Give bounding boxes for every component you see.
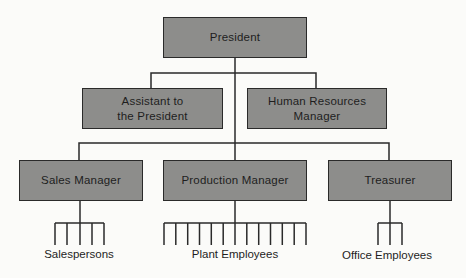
production-label: Production Manager bbox=[181, 173, 288, 188]
staff-connector bbox=[151, 73, 316, 88]
plant-employees-rake bbox=[164, 223, 306, 245]
office-employees-label: Office Employees bbox=[342, 249, 432, 261]
hr-label: Human Resources Manager bbox=[268, 94, 366, 124]
line-connector bbox=[79, 143, 389, 160]
president-box: President bbox=[163, 17, 307, 58]
salespersons-rake bbox=[55, 223, 104, 245]
president-label: President bbox=[210, 30, 260, 45]
hr-manager-box: Human Resources Manager bbox=[247, 88, 387, 129]
production-manager-box: Production Manager bbox=[163, 160, 307, 201]
plant-employees-label: Plant Employees bbox=[192, 248, 278, 260]
sales-label: Sales Manager bbox=[41, 173, 121, 188]
salespersons-label: Salespersons bbox=[44, 248, 114, 260]
assistant-label: Assistant to the President bbox=[117, 94, 187, 124]
office-employees-rake bbox=[378, 223, 402, 245]
treasurer-label: Treasurer bbox=[364, 173, 415, 188]
assistant-to-president-box: Assistant to the President bbox=[82, 88, 223, 129]
treasurer-box: Treasurer bbox=[328, 160, 452, 201]
sales-manager-box: Sales Manager bbox=[19, 160, 143, 201]
